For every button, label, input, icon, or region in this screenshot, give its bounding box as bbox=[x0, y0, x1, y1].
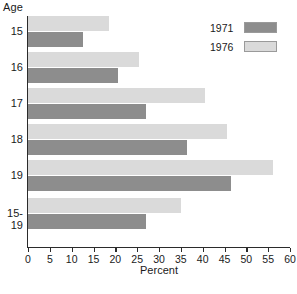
bar-1976 bbox=[28, 124, 227, 139]
y-axis-label: 16 bbox=[11, 62, 23, 74]
bar-group bbox=[28, 124, 290, 155]
legend-label: 1971 bbox=[210, 22, 233, 34]
x-tick-mark bbox=[246, 248, 247, 252]
y-axis-label-line2: 19 bbox=[7, 219, 23, 231]
bar-1971 bbox=[28, 140, 187, 155]
x-tick-mark bbox=[72, 248, 73, 252]
legend-entry: 1971 bbox=[210, 21, 292, 37]
legend-entry: 1976 bbox=[210, 40, 292, 56]
y-axis-category-labels: 151617181915-19 bbox=[0, 16, 26, 242]
bar-1971 bbox=[28, 176, 231, 191]
y-axis-label: 19 bbox=[11, 170, 23, 182]
chart-legend: 19711976 bbox=[210, 21, 292, 59]
bar-group bbox=[28, 160, 290, 191]
bar-1971 bbox=[28, 214, 146, 229]
x-tick-mark bbox=[181, 248, 182, 252]
bar-group bbox=[28, 198, 290, 229]
bar-chart-figure: Age 151617181915-19 05101520253035404550… bbox=[0, 0, 297, 294]
bar-1976 bbox=[28, 88, 205, 103]
y-axis-label: 15-19 bbox=[7, 207, 23, 231]
bar-1971 bbox=[28, 68, 118, 83]
y-axis-label-line1: 15- bbox=[7, 207, 23, 219]
bar-1976 bbox=[28, 52, 139, 67]
bar-1976 bbox=[28, 160, 273, 175]
x-tick-mark bbox=[225, 248, 226, 252]
x-tick-mark bbox=[28, 248, 29, 252]
bar-1971 bbox=[28, 104, 146, 119]
bar-group bbox=[28, 88, 290, 119]
legend-swatch bbox=[244, 22, 277, 33]
x-tick-mark bbox=[94, 248, 95, 252]
legend-label: 1976 bbox=[210, 41, 233, 53]
y-axis-label: 18 bbox=[11, 134, 23, 146]
bar-1971 bbox=[28, 32, 83, 47]
x-tick-mark bbox=[50, 248, 51, 252]
x-tick-mark bbox=[290, 248, 291, 252]
y-axis-label: 17 bbox=[11, 98, 23, 110]
x-tick-mark bbox=[203, 248, 204, 252]
bar-1976 bbox=[28, 198, 181, 213]
x-tick-mark bbox=[137, 248, 138, 252]
x-tick-mark bbox=[268, 248, 269, 252]
y-axis-label: 15 bbox=[11, 26, 23, 38]
legend-swatch bbox=[244, 41, 277, 52]
x-tick-mark bbox=[159, 248, 160, 252]
x-axis-title: Percent bbox=[28, 264, 290, 277]
x-tick-mark bbox=[115, 248, 116, 252]
y-axis-title: Age bbox=[3, 1, 23, 13]
bar-1976 bbox=[28, 16, 109, 31]
